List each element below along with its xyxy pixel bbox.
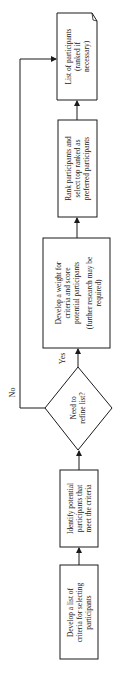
label-line: select top ranked as <box>73 121 82 216</box>
label-line: Develop a weight for <box>54 240 63 346</box>
label-line: participants <box>84 567 93 659</box>
edge-label-yes: Yes <box>58 353 67 365</box>
edge-n3-n6-no <box>20 59 56 408</box>
label-line: refine list? <box>78 383 87 433</box>
label-line: potential participants <box>72 240 81 346</box>
node-weight-score-label: Develop a weight for criteria and score … <box>54 240 98 346</box>
label-line: List of participants <box>64 14 73 100</box>
label-line: Identify potential <box>66 471 75 547</box>
label-line: criteria and score <box>63 240 72 346</box>
node-develop-criteria-label: Develop a list of criteria for selecting… <box>66 567 93 659</box>
node-rank-label: Rank participants and select top ranked … <box>64 121 91 216</box>
label-line: criteria for selecting <box>75 567 84 659</box>
label-line: meet the criteria <box>84 471 93 547</box>
label-note-line: (further research may be <box>85 240 94 346</box>
node-decision-label: Need to refine list? <box>69 383 87 433</box>
node-list-document-label: List of participants (ranked if necessar… <box>64 14 91 100</box>
label-line: Rank participants and <box>64 121 73 216</box>
label-line: Develop a list of <box>66 567 75 659</box>
label-line: (ranked if <box>73 14 82 100</box>
label-line: Need to <box>69 383 78 433</box>
label-line: preferred participants <box>82 121 91 216</box>
label-line: necessary) <box>82 14 91 100</box>
label-note-line: required) <box>94 240 103 346</box>
label-line: participants that <box>75 471 84 547</box>
node-identify-participants-label: Identify potential participants that mee… <box>66 471 93 547</box>
edge-label-no: No <box>8 388 17 398</box>
